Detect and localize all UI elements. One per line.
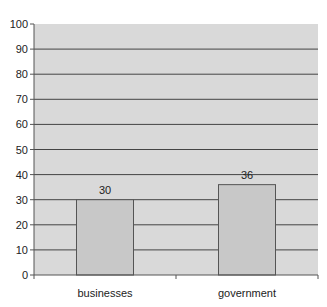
y-tick-label: 20 [16,219,28,231]
y-tick-label: 40 [16,169,28,181]
y-tick-label: 10 [16,244,28,256]
y-tick-label: 90 [16,43,28,55]
bar-government [219,185,276,275]
x-category-label: government [218,287,276,299]
y-tick-label: 0 [22,269,28,281]
y-tick-label: 70 [16,93,28,105]
data-label-government: 36 [241,169,253,181]
data-label-businesses: 30 [99,184,111,196]
y-tick-label: 80 [16,68,28,80]
bar-chart: 0102030405060708090100 businessesgovernm… [0,0,327,307]
x-axis-ticks: businessesgovernment [34,275,318,299]
y-tick-label: 100 [10,18,28,30]
y-axis-ticks: 0102030405060708090100 [10,18,34,281]
bar-businesses [77,200,134,275]
y-tick-label: 50 [16,144,28,156]
y-tick-label: 60 [16,118,28,130]
x-category-label: businesses [77,287,133,299]
y-tick-label: 30 [16,194,28,206]
